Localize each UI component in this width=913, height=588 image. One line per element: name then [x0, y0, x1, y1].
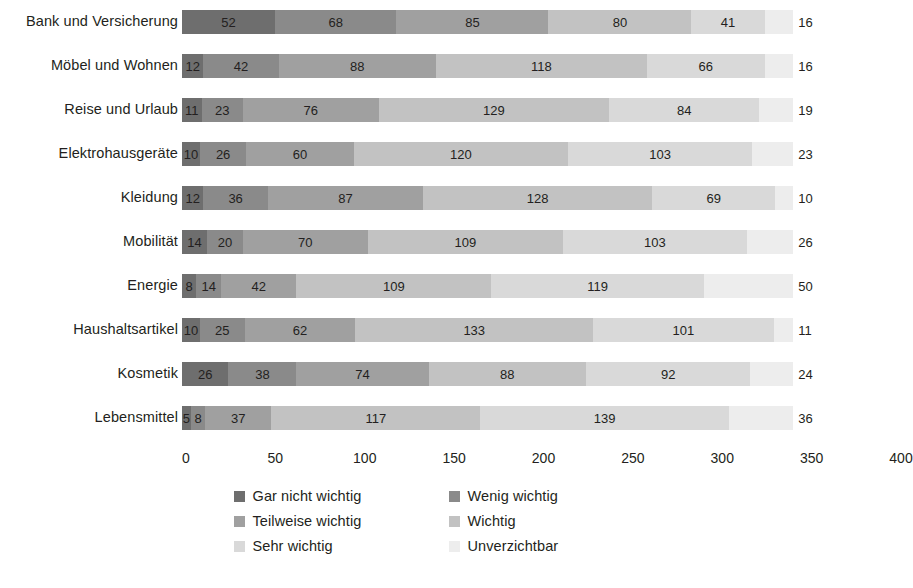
legend-item[interactable]: Teilweise wichtig	[234, 513, 449, 529]
bar-segment[interactable]: 129	[379, 98, 610, 122]
legend-item[interactable]: Unverzichtbar	[449, 538, 664, 554]
bar-segment[interactable]: 80	[548, 10, 691, 34]
bar-segment[interactable]: 11	[182, 98, 202, 122]
segment-value-label: 60	[293, 148, 307, 161]
bar-segment[interactable]: 50	[704, 274, 793, 298]
bar-segment[interactable]: 69	[652, 186, 775, 210]
legend-item[interactable]: Sehr wichtig	[234, 538, 449, 554]
bar-segment[interactable]: 119	[491, 274, 704, 298]
bar-segment[interactable]: 88	[279, 54, 436, 78]
bar-segment[interactable]: 87	[268, 186, 424, 210]
segment-value-label: 10	[184, 148, 198, 161]
bar-segment[interactable]: 41	[691, 10, 764, 34]
bar-segment[interactable]: 139	[480, 406, 728, 430]
bar-segment[interactable]: 16	[765, 54, 794, 78]
stacked-bar[interactable]: 1123761298419	[182, 98, 793, 122]
segment-value-label: 66	[698, 60, 712, 73]
segment-value-label: 19	[798, 104, 812, 117]
bar-segment[interactable]: 23	[752, 142, 793, 166]
stacked-bar[interactable]: 263874889224	[182, 362, 793, 386]
bar-segment[interactable]: 42	[203, 54, 278, 78]
bar-segment[interactable]: 60	[246, 142, 353, 166]
bar-segment[interactable]: 42	[221, 274, 296, 298]
segment-value-label: 103	[644, 236, 666, 249]
legend-swatch-icon	[234, 541, 245, 552]
bar-segment[interactable]: 38	[228, 362, 296, 386]
bar-segment[interactable]: 36	[729, 406, 793, 430]
chart-legend: Gar nicht wichtigWenig wichtigTeilweise …	[0, 488, 897, 554]
segment-value-label: 36	[228, 192, 242, 205]
bar-segment[interactable]: 109	[296, 274, 491, 298]
bar-segment[interactable]: 103	[568, 142, 752, 166]
stacked-bar[interactable]: 1236871286910	[182, 186, 793, 210]
bar-segment[interactable]: 68	[275, 10, 397, 34]
bar-segment[interactable]: 128	[423, 186, 652, 210]
bar-row: Reise und Urlaub1123761298419	[0, 88, 897, 132]
bar-segment[interactable]: 8	[182, 274, 196, 298]
segment-value-label: 14	[202, 280, 216, 293]
bar-segment[interactable]: 109	[368, 230, 563, 254]
bar-segment[interactable]: 70	[243, 230, 368, 254]
bar-segment[interactable]: 62	[245, 318, 356, 342]
bar-segment[interactable]: 20	[207, 230, 243, 254]
stacked-bar[interactable]: 1242881186616	[182, 54, 793, 78]
category-label: Kleidung	[0, 190, 182, 206]
bar-segment[interactable]: 23	[202, 98, 243, 122]
bar-segment[interactable]: 5	[182, 406, 191, 430]
bar-track: 1236871286910	[182, 186, 897, 210]
bar-segment[interactable]: 10	[775, 186, 793, 210]
bar-segment[interactable]: 14	[196, 274, 221, 298]
segment-value-label: 14	[187, 236, 201, 249]
bar-track: 583711713936	[182, 406, 897, 430]
legend-swatch-icon	[234, 491, 245, 502]
bar-segment[interactable]: 11	[774, 318, 794, 342]
bar-segment[interactable]: 36	[203, 186, 267, 210]
stacked-bar[interactable]: 14207010910326	[182, 230, 793, 254]
legend-item[interactable]: Wenig wichtig	[449, 488, 664, 504]
bar-track: 526885804116	[182, 10, 897, 34]
bar-segment[interactable]: 120	[354, 142, 569, 166]
stacked-bar[interactable]: 583711713936	[182, 406, 793, 430]
bar-segment[interactable]: 26	[200, 142, 246, 166]
bar-segment[interactable]: 133	[355, 318, 593, 342]
stacked-bar[interactable]: 10266012010323	[182, 142, 793, 166]
bar-segment[interactable]: 117	[271, 406, 480, 430]
bar-segment[interactable]: 14	[182, 230, 207, 254]
legend-swatch-icon	[449, 491, 460, 502]
legend-item[interactable]: Wichtig	[449, 513, 664, 529]
bar-segment[interactable]: 88	[429, 362, 586, 386]
bar-segment[interactable]: 12	[182, 186, 203, 210]
bar-segment[interactable]: 37	[205, 406, 271, 430]
bar-segment[interactable]: 84	[609, 98, 759, 122]
bar-segment[interactable]: 16	[765, 10, 794, 34]
bar-segment[interactable]: 76	[243, 98, 379, 122]
segment-value-label: 10	[798, 192, 812, 205]
legend-item[interactable]: Gar nicht wichtig	[234, 488, 449, 504]
bar-segment[interactable]: 12	[182, 54, 203, 78]
bar-segment[interactable]: 10	[182, 318, 200, 342]
bar-segment[interactable]: 24	[750, 362, 793, 386]
bar-segment[interactable]: 101	[593, 318, 774, 342]
bar-segment[interactable]: 19	[759, 98, 793, 122]
segment-value-label: 70	[298, 236, 312, 249]
stacked-bar[interactable]: 10256213310111	[182, 318, 793, 342]
bar-segment[interactable]: 52	[182, 10, 275, 34]
bar-segment[interactable]: 74	[296, 362, 428, 386]
bar-segment[interactable]: 26	[182, 362, 228, 386]
bar-segment[interactable]: 26	[747, 230, 793, 254]
bar-segment[interactable]: 10	[182, 142, 200, 166]
segment-value-label: 62	[293, 324, 307, 337]
bar-segment[interactable]: 103	[563, 230, 747, 254]
bar-segment[interactable]: 8	[191, 406, 205, 430]
bar-segment[interactable]: 85	[396, 10, 548, 34]
bar-track: 1242881186616	[182, 54, 897, 78]
bar-segment[interactable]: 25	[200, 318, 245, 342]
stacked-bar[interactable]: 526885804116	[182, 10, 793, 34]
segment-value-label: 10	[184, 324, 198, 337]
bar-segment[interactable]: 118	[436, 54, 647, 78]
stacked-bar[interactable]: 8144210911950	[182, 274, 793, 298]
category-label: Reise und Urlaub	[0, 102, 182, 118]
legend-row: Gar nicht wichtigWenig wichtig	[234, 488, 664, 504]
bar-segment[interactable]: 92	[586, 362, 750, 386]
bar-segment[interactable]: 66	[647, 54, 765, 78]
